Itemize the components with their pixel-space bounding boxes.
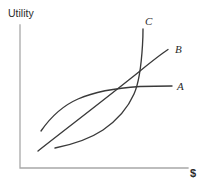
y-axis-label: Utility	[8, 7, 34, 19]
curve-c-path	[55, 29, 143, 148]
curve-a-path	[41, 86, 172, 131]
curve-c-label: C	[145, 15, 153, 27]
chart-canvas: Utility $ A B C	[0, 0, 207, 184]
curve-b-path	[38, 50, 168, 152]
curve-b-label: B	[175, 43, 182, 55]
x-axis-label: $	[190, 167, 196, 179]
chart-axes	[20, 25, 188, 168]
curve-a-label: A	[176, 80, 184, 92]
utility-vs-dollars-chart: Utility $ A B C	[0, 0, 207, 184]
